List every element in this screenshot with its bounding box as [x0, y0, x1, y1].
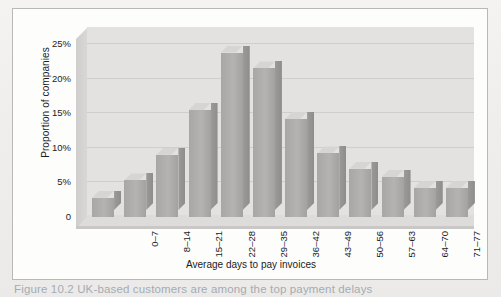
bar-top-face — [253, 61, 275, 68]
y-axis-tick-labels: 25%20%15%10%5%0 — [37, 9, 71, 281]
bar-side-face — [275, 61, 282, 210]
x-axis-tick-label: 22–28 — [247, 231, 257, 279]
bar-top-face — [349, 162, 371, 169]
bar-top-face — [189, 103, 211, 110]
y-axis-tick-label: 0 — [37, 212, 71, 222]
bar-side-face — [178, 148, 185, 210]
bar[interactable] — [189, 110, 211, 217]
figure-frame: Proportion of companies 25%20%15%10%5%0 … — [12, 8, 488, 280]
bar-top-face — [285, 112, 307, 119]
y-axis-tick-label: 5% — [37, 177, 71, 187]
bar-front-face — [221, 53, 243, 217]
bar-side-face — [371, 162, 378, 210]
y-axis-tick-label: 15% — [37, 108, 71, 118]
bar-top-face — [317, 146, 339, 153]
bar-front-face — [349, 169, 371, 217]
bar-front-face — [156, 155, 178, 217]
bar-top-face — [156, 148, 178, 155]
bar-side-face — [114, 191, 121, 210]
bar[interactable] — [156, 155, 178, 217]
bar-front-face — [382, 177, 404, 217]
y-axis-tick-label: 20% — [37, 74, 71, 84]
y-axis-tick-label: 10% — [37, 143, 71, 153]
x-axis-tick-label: 64–70 — [440, 231, 450, 279]
bar-top-face — [382, 170, 404, 177]
bar-side-face — [211, 103, 218, 210]
bar-top-face — [124, 173, 146, 180]
y-axis-tick-label: 25% — [37, 39, 71, 49]
bar-side-face — [404, 170, 411, 210]
bar-top-face — [414, 181, 436, 188]
bar-front-face — [317, 153, 339, 217]
bar[interactable] — [253, 68, 275, 217]
bar-side-face — [468, 181, 475, 210]
chart-area: Proportion of companies 25%20%15%10%5%0 … — [13, 9, 489, 281]
bar-top-face — [221, 46, 243, 53]
x-axis-tick-label: 8–14 — [182, 231, 192, 279]
bar-side-face — [339, 146, 346, 210]
bar-top-face — [92, 191, 114, 198]
bar-front-face — [414, 188, 436, 217]
x-axis-tick-label: 57–63 — [407, 231, 417, 279]
plot-floor-front-edge — [76, 226, 474, 229]
plot-box — [76, 27, 474, 229]
bar[interactable] — [349, 169, 371, 217]
bar[interactable] — [124, 180, 146, 217]
x-axis-tick-labels: 0–78–1415–2122–2829–3536–4243–4950–5657–… — [76, 231, 474, 277]
bar-front-face — [446, 188, 468, 217]
bar-front-face — [124, 180, 146, 217]
x-axis-tick-label: 43–49 — [343, 231, 353, 279]
bar-front-face — [285, 119, 307, 217]
x-axis-tick-label: 71–77 — [472, 231, 482, 279]
bar-front-face — [253, 68, 275, 217]
bar[interactable] — [317, 153, 339, 217]
x-axis-tick-label: 50–56 — [375, 231, 385, 279]
bar-side-face — [436, 181, 443, 210]
bar[interactable] — [414, 188, 436, 217]
x-axis-title: Average days to pay invoices — [13, 259, 489, 270]
bar[interactable] — [221, 53, 243, 217]
x-axis-tick-label: 15–21 — [214, 231, 224, 279]
bar-side-face — [146, 173, 153, 210]
bar-series — [87, 27, 474, 217]
x-axis-tick-label: 29–35 — [279, 231, 289, 279]
bar-front-face — [92, 198, 114, 217]
bar[interactable] — [285, 119, 307, 217]
bar-side-face — [307, 112, 314, 210]
bar[interactable] — [382, 177, 404, 217]
bar[interactable] — [446, 188, 468, 217]
figure-caption: Figure 10.2 UK-based customers are among… — [14, 283, 372, 295]
bar-front-face — [189, 110, 211, 217]
x-axis-tick-label: 36–42 — [311, 231, 321, 279]
bar-top-face — [446, 181, 468, 188]
bar[interactable] — [92, 198, 114, 217]
bar-side-face — [243, 46, 250, 210]
x-axis-tick-label: 0–7 — [150, 231, 160, 279]
